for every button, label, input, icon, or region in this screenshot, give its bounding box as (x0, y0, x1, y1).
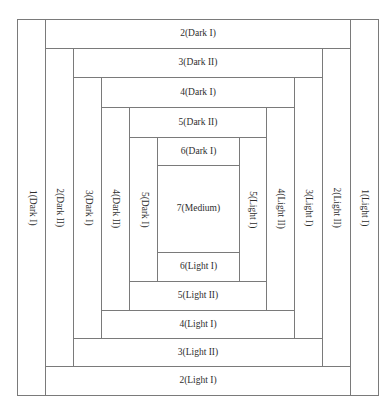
piece-right-1: 1(Light I) (350, 19, 379, 396)
piece-label: 2(Dark I) (180, 29, 216, 39)
piece-label: 4(Dark II) (111, 190, 121, 229)
piece-center-7: 7(Medium) (157, 165, 240, 253)
piece-right-2: 2(Light II) (322, 48, 351, 367)
piece-label: 5(Light I) (248, 191, 258, 228)
piece-label: 6(Dark I) (181, 147, 217, 157)
piece-left-1: 1(Dark I) (17, 19, 46, 396)
piece-label: 7(Medium) (177, 204, 220, 214)
piece-left-2: 2(Dark II) (45, 48, 74, 367)
piece-left-5: 5(Dark I) (129, 137, 158, 282)
piece-label: 5(Light II) (178, 291, 218, 301)
piece-top-4: 4(Dark I) (101, 77, 295, 108)
piece-label: 5(Dark II) (179, 118, 218, 128)
piece-label: 2(Dark II) (55, 188, 65, 227)
piece-label: 3(Light I) (304, 189, 314, 226)
piece-bottom-4: 4(Light I) (101, 310, 295, 339)
piece-top-5: 5(Dark II) (129, 107, 267, 138)
piece-label: 3(Dark II) (179, 58, 218, 68)
log-cabin-diagram: 1(Dark I)2(Dark I)1(Light I)2(Dark II)3(… (0, 0, 391, 419)
piece-label: 5(Dark I) (139, 192, 149, 228)
piece-label: 4(Dark I) (180, 88, 216, 98)
piece-bottom-3: 3(Light II) (73, 338, 323, 367)
piece-label: 4(Light I) (179, 320, 216, 330)
piece-bottom-5: 5(Light II) (129, 281, 267, 311)
piece-label: 4(Light II) (276, 189, 286, 229)
piece-top-6: 6(Dark I) (157, 137, 240, 166)
piece-top-2: 2(Dark I) (45, 19, 351, 49)
piece-top-3: 3(Dark II) (73, 48, 323, 78)
piece-label: 1(Dark I) (27, 190, 37, 226)
piece-right-5: 5(Light I) (239, 137, 267, 282)
piece-bottom-6: 6(Light I) (157, 252, 240, 282)
piece-label: 3(Light II) (178, 348, 218, 358)
piece-label: 2(Light II) (332, 187, 342, 227)
piece-right-3: 3(Light I) (294, 77, 323, 339)
piece-left-4: 4(Dark II) (101, 107, 130, 311)
piece-left-3: 3(Dark I) (73, 77, 102, 339)
piece-bottom-2: 2(Light I) (45, 366, 351, 396)
piece-label: 6(Light I) (180, 262, 217, 272)
piece-label: 2(Light I) (179, 376, 216, 386)
piece-label: 3(Dark I) (83, 190, 93, 226)
piece-right-4: 4(Light II) (266, 107, 295, 311)
piece-label: 1(Light I) (360, 189, 370, 226)
